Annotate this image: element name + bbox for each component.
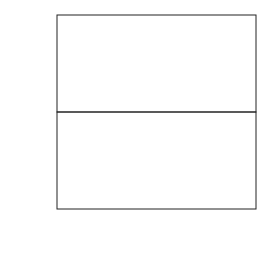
bottom-panel-frame <box>57 112 256 209</box>
top-panel-frame <box>57 15 256 112</box>
bottom-panel <box>0 0 256 209</box>
top-panel <box>0 0 256 112</box>
energy-histogram-figure <box>0 0 269 253</box>
